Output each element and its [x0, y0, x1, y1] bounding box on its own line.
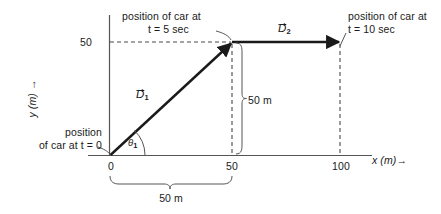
annotation-position-t10: position of car at t = 10 sec — [348, 10, 440, 36]
vector-diagram-figure: 50 0 50 100 x (m)→ y (m) → position of c… — [0, 0, 441, 214]
vector-label-d2: D2 — [278, 22, 291, 38]
vector-d1-letter: D — [136, 88, 144, 100]
x-tick-label-100: 100 — [328, 160, 354, 173]
axis-lines — [88, 15, 372, 156]
vector-d1-symbol: D — [136, 88, 144, 101]
annotation-position-t0: position of car at t = 0 — [6, 126, 102, 152]
annotation-position-t5: position of car at t = 5 sec — [122, 10, 240, 36]
annotation-t0-line1: position — [65, 126, 102, 138]
vector-d2-subscript: 2 — [286, 27, 290, 36]
annotation-t0-line2: of car at t = 0 — [39, 139, 102, 151]
vector-d1-subscript: 1 — [144, 93, 148, 102]
x-axis-title: x (m)→ — [372, 154, 407, 167]
vertical-dimension-brace — [236, 43, 247, 154]
annotation-t10-line1: position of car at — [348, 10, 427, 22]
annotation-t5-line2: t = 5 sec — [122, 23, 240, 36]
annotation-t10-line2: t = 10 sec — [348, 23, 440, 36]
annotation-t5-line1: position of car at — [122, 10, 201, 22]
leader-line-t10 — [340, 33, 346, 46]
horizontal-dimension-brace — [110, 176, 232, 189]
dimension-label-horizontal-50m: 50 m — [140, 192, 202, 205]
vector-label-d1: D1 — [136, 88, 149, 104]
dimension-label-vertical-50m: 50 m — [248, 94, 272, 107]
angle-theta-subscript: 1 — [133, 141, 137, 150]
y-axis-title: y (m) → — [26, 63, 39, 135]
x-tick-label-0: 0 — [104, 160, 118, 173]
y-tick-label-50: 50 — [72, 36, 92, 49]
vector-d2-symbol: D — [278, 22, 286, 35]
angle-label-theta1: θ1 — [128, 136, 138, 152]
x-tick-label-50: 50 — [222, 160, 242, 173]
vector-d2-letter: D — [278, 22, 286, 34]
